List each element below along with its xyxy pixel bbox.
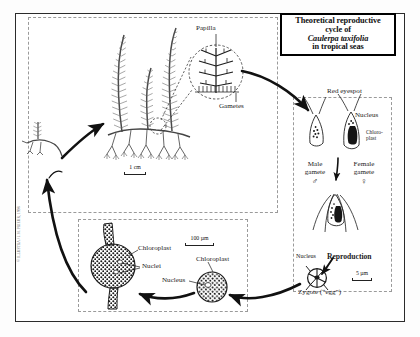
label-nucleus-zygote: Nucleus <box>296 253 316 259</box>
credit-text: © ILLUSTRA / J.M. PRIEUR, 1998 <box>17 206 21 262</box>
title-box: Theoretical reproductive cycle of Cauler… <box>280 13 396 56</box>
label-chloroplast-left: Chloroplast <box>138 245 171 252</box>
gametes-panel <box>293 97 392 292</box>
label-chloroplast-line2: plast <box>366 136 376 142</box>
label-zygote: Zygote (“egg”) <box>298 289 341 296</box>
male-symbol-icon: ♂ <box>298 177 332 186</box>
label-chloroplast-right: Chloroplast <box>196 256 229 263</box>
scale-bar-100um-label: 100 µm <box>185 235 214 241</box>
title-line-4: in tropical seas <box>312 43 363 52</box>
label-nucleus-gamete: Nucleus <box>355 112 378 119</box>
label-reproduction: Reproduction <box>327 253 372 261</box>
label-nucleus-cell: Nucleus <box>162 277 185 284</box>
thallus-panel <box>28 17 278 213</box>
scale-bar-5um-label: 5 µm <box>352 270 372 276</box>
cells-panel <box>78 219 248 312</box>
figure-root: Theoretical reproductive cycle of Cauler… <box>0 0 420 337</box>
female-symbol-icon: ♀ <box>344 177 384 186</box>
label-papilla: Papilla <box>196 25 216 32</box>
label-nuclei: Nuclei <box>142 263 161 270</box>
scale-bar-1cm-label: 1 cm <box>124 164 146 170</box>
label-red-eyespot: Red eyespot <box>327 88 362 95</box>
label-gametes: Gametes <box>219 103 244 110</box>
